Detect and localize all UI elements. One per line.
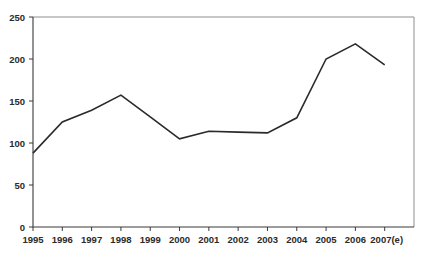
y-tick-label: 0: [20, 222, 25, 233]
x-tick-label: 2006: [345, 234, 366, 245]
y-tick-label: 150: [9, 96, 25, 107]
x-tick-label: 1998: [110, 234, 131, 245]
y-tick-label: 50: [14, 180, 25, 191]
y-tick-label: 200: [9, 54, 25, 65]
x-tick-label: 1997: [81, 234, 102, 245]
x-tick-label: 1995: [22, 234, 44, 245]
line-chart: 250200150100500 199519961997199819992000…: [0, 0, 430, 259]
y-tick-label: 250: [9, 12, 25, 23]
y-tick-label: 100: [9, 138, 25, 149]
x-tick-label: 2000: [169, 234, 190, 245]
x-tick-label: 2003: [257, 234, 278, 245]
x-tick-label: 1999: [140, 234, 161, 245]
x-tick-label: 2007(e): [370, 234, 403, 245]
x-tick-label: 1996: [52, 234, 73, 245]
x-tick-label: 2005: [316, 234, 338, 245]
x-tick-label: 2001: [198, 234, 220, 245]
x-tick-label: 2004: [286, 234, 308, 245]
x-tick-label: 2002: [228, 234, 249, 245]
chart-canvas: 250200150100500 199519961997199819992000…: [0, 0, 430, 259]
chart-background: [0, 0, 430, 259]
